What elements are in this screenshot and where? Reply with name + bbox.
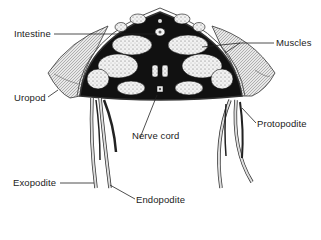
- left-swimmeret: [92, 98, 117, 188]
- nerve-cord-structure: [157, 86, 163, 92]
- label-protopodite: Protopodite: [257, 118, 307, 129]
- label-uropod: Uropod: [14, 92, 46, 103]
- label-muscles: Muscles: [276, 37, 312, 48]
- label-nerve-cord: Nerve cord: [132, 130, 179, 141]
- label-endopodite: Endopodite: [136, 194, 185, 205]
- label-exopodite: Exopodite: [13, 177, 56, 188]
- label-intestine: Intestine: [14, 28, 51, 39]
